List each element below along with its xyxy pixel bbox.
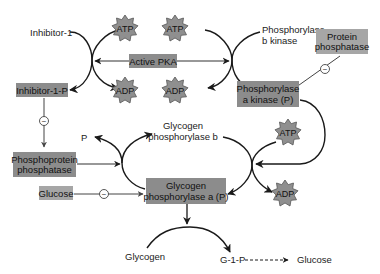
kinase-cycle — [205, 30, 260, 88]
adp-star-2: ADP — [162, 77, 188, 103]
active-pka-box: Active PKA — [129, 54, 177, 68]
phosphorylation-cycle — [223, 100, 325, 194]
atp-star-1: ATP — [112, 15, 138, 41]
inhibitor-1-p-box: Inhibitor-1-P — [16, 83, 68, 97]
svg-text:Protein: Protein — [327, 31, 357, 42]
glucose-inhibitor-box: Glucose — [39, 186, 74, 200]
svg-text:Inhibitor-1-P: Inhibitor-1-P — [16, 85, 68, 96]
inhibition-symbol-2: − — [40, 117, 49, 127]
glycogen-phosphorylase-b-label-line1: Glycogen — [163, 120, 203, 131]
svg-text:Phosphorylase: Phosphorylase — [237, 83, 300, 94]
svg-text:ADP: ADP — [276, 189, 295, 199]
glucose-product-label: Glucose — [297, 254, 332, 265]
svg-text:ATP: ATP — [280, 128, 297, 138]
svg-text:Phosphoprotein: Phosphoprotein — [11, 154, 78, 165]
glycogen-label: Glycogen — [125, 251, 165, 262]
svg-text:Glucose: Glucose — [39, 188, 74, 199]
glycogen-metabolism-diagram: Active PKA ATP ATP ADP ADP Inhibitor-1 P… — [0, 0, 380, 274]
adp-star-3: ADP — [272, 180, 298, 206]
active-pka-label: Active PKA — [129, 56, 177, 67]
svg-text:ATP: ATP — [167, 24, 184, 34]
phosphoprotein-phosphatase-box: Phosphoprotein phosphatase — [11, 152, 78, 177]
adp-star-1: ADP — [112, 77, 138, 103]
svg-text:ADP: ADP — [116, 86, 135, 96]
atp-star-2: ATP — [162, 15, 188, 41]
svg-text:a kinase (P): a kinase (P) — [243, 94, 294, 105]
svg-text:ADP: ADP — [166, 86, 185, 96]
atp-star-3: ATP — [275, 119, 301, 145]
inhibitor-cycle — [70, 30, 120, 90]
svg-text:−: − — [102, 190, 107, 199]
phosphorylase-b-kinase-label-line2: b kinase — [262, 35, 297, 46]
phosphorylase-a-kinase-box: Phosphorylase a kinase (P) — [237, 81, 300, 107]
phosphate-label: P — [81, 132, 87, 143]
svg-text:−: − — [42, 117, 47, 126]
inhibitor-1-label: Inhibitor-1 — [30, 27, 72, 38]
svg-text:phosphorylase a (P): phosphorylase a (P) — [143, 191, 228, 202]
glycogenolysis-arrow — [147, 227, 230, 252]
inhibition-symbol-3: − — [100, 190, 109, 200]
phosphorylase-b-kinase-label-line1: Phosphorylase — [262, 24, 325, 35]
svg-text:phosphatase: phosphatase — [315, 41, 369, 52]
protein-phosphatase-box: Protein phosphatase — [315, 29, 369, 54]
glycogen-phosphorylase-b-label-line2: phosphorylase b — [148, 131, 218, 142]
svg-text:phosphatase: phosphatase — [17, 164, 71, 175]
svg-text:Glycogen: Glycogen — [166, 180, 206, 191]
glycogen-phosphorylase-a-box: Glycogen phosphorylase a (P) — [143, 178, 228, 204]
svg-text:ATP: ATP — [117, 24, 134, 34]
dephosphorylation-cycle — [95, 134, 152, 189]
svg-text:−: − — [323, 65, 328, 74]
inhibition-symbol-1: − — [321, 65, 330, 75]
g1p-label: G-1-P — [220, 254, 245, 265]
